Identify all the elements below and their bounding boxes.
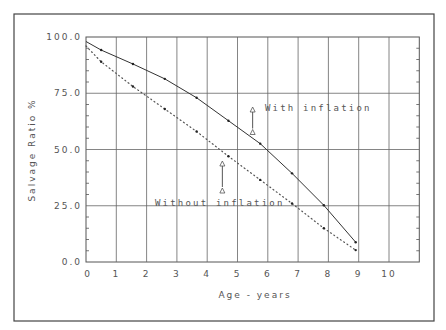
triangle-marker-icon [220,188,225,193]
x-tick-label: 10 [381,269,396,279]
triangle-marker-icon [250,107,255,112]
without-inflation-line [86,46,356,250]
data-point [323,227,325,229]
data-point [291,172,293,174]
x-tick-label: 6 [264,269,272,279]
y-tick-label: 50.0 [54,145,82,155]
triangle-marker-icon [220,161,225,166]
x-tick-label: 0 [84,269,92,279]
data-point [100,61,102,63]
y-tick-label: 75.0 [54,88,82,98]
y-tick-label: 25.0 [54,201,82,211]
y-axis-title: Salvage Ratio % [27,98,37,201]
without-inflation-label: Without inflation [155,198,285,208]
data-point [132,63,134,65]
data-point [227,155,229,157]
y-tick-label: 0.0 [62,257,82,267]
series [86,42,357,252]
data-point [354,249,356,251]
data-point [227,120,229,122]
data-point [291,202,293,204]
data-point [259,142,261,144]
data-point [195,130,197,132]
x-tick-label: 4 [203,269,211,279]
x-tick-labels: 012345678910 [84,269,397,279]
x-tick-label: 8 [325,269,333,279]
x-tick-label: 3 [173,269,181,279]
x-tick-label: 7 [294,269,302,279]
grid [86,37,419,262]
x-axis-title: Age - years [218,290,291,300]
data-point [259,179,261,181]
data-point [195,97,197,99]
with-inflation-label: With inflation [265,103,372,113]
data-point [100,49,102,51]
triangle-marker-icon [250,130,255,135]
data-point [323,204,325,206]
x-tick-label: 1 [112,269,120,279]
data-point [132,85,134,87]
y-tick-label: 100.0 [46,32,82,42]
data-point [164,78,166,80]
salvage-ratio-chart: 012345678910 0.025.050.075.0100.0 With i… [0,0,446,330]
outer-frame [14,14,434,321]
data-point [164,108,166,110]
y-tick-labels: 0.025.050.075.0100.0 [46,32,82,267]
with-inflation-line [86,42,356,243]
x-tick-label: 9 [355,269,363,279]
x-tick-label: 2 [143,269,151,279]
annotations: With inflationWithout inflation [155,103,372,208]
data-point [354,241,356,243]
x-tick-label: 5 [234,269,242,279]
